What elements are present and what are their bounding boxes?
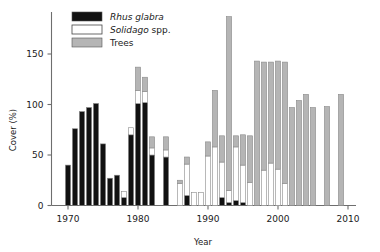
bar-segment-2005-trees: [310, 108, 315, 206]
bar-2001: [282, 62, 287, 205]
bar-segment-1980-trees: [135, 67, 140, 90]
bar-1992: [219, 136, 224, 206]
bar-segment-1979-solidago-spp: [128, 128, 133, 135]
bar-segment-1989-solidago-spp: [198, 192, 203, 205]
bar-segment-1996-trees: [247, 136, 252, 182]
bar-1995: [240, 135, 245, 206]
bar-segment-1980-solidago-spp: [135, 90, 140, 103]
bar-1987: [184, 157, 189, 205]
bar-1988: [191, 192, 196, 205]
bar-segment-2000-solidago-spp: [275, 169, 280, 205]
bar-segment-1980-rhus-glabra: [135, 103, 140, 205]
bar-segment-1998-trees: [261, 62, 266, 170]
bar-segment-1990-solidago-spp: [205, 156, 210, 205]
bar-segment-1991-trees: [212, 90, 217, 147]
bar-2007: [324, 107, 329, 206]
bar-1980: [135, 67, 140, 205]
bar-1973: [86, 108, 91, 206]
bar-1976: [107, 178, 112, 205]
bar-segment-1982-solidago-spp: [149, 148, 154, 155]
bar-segment-2000-trees: [275, 61, 280, 169]
bar-segment-1999-solidago-spp: [268, 163, 273, 205]
y-tick-label-150: 150: [26, 49, 43, 59]
bar-1994: [233, 136, 238, 206]
bar-1971: [72, 129, 77, 206]
bar-1999: [268, 62, 273, 205]
bar-segment-2007-trees: [324, 107, 329, 206]
bar-segment-2003-trees: [296, 100, 301, 205]
bar-1972: [79, 112, 84, 206]
bar-1993: [226, 17, 231, 206]
y-tick-label-100: 100: [26, 100, 43, 110]
x-tick-label-1990: 1990: [197, 214, 220, 224]
bar-1981: [142, 77, 147, 205]
bar-segment-1995-rhus-glabra: [240, 202, 245, 205]
bar-segment-1984-solidago-spp: [163, 150, 168, 157]
bar-segment-1978-solidago-spp: [121, 191, 126, 197]
bar-segment-1991-solidago-spp: [212, 147, 217, 206]
bar-segment-1986-trees: [177, 180, 182, 183]
bar-1984: [163, 137, 168, 206]
bar-segment-1976-rhus-glabra: [107, 178, 112, 205]
legend-item-rhus-glabra: Rhus glabra: [72, 12, 164, 22]
bar-segment-1993-rhus-glabra: [226, 202, 231, 205]
bar-segment-1981-solidago-spp: [142, 91, 147, 102]
bar-segment-1982-rhus-glabra: [149, 155, 154, 206]
legend-label-trees: Trees: [109, 38, 134, 48]
bar-segment-1988-solidago-spp: [191, 192, 196, 205]
bar-segment-1995-solidago-spp: [240, 165, 245, 202]
bar-2000: [275, 61, 280, 205]
bar-segment-1994-rhus-glabra: [233, 200, 238, 205]
bar-1975: [100, 144, 105, 206]
bar-segment-1973-rhus-glabra: [86, 108, 91, 206]
bar-1978: [121, 191, 126, 205]
bar-segment-2004-trees: [303, 94, 308, 205]
legend-label-rhus-glabra: Rhus glabra: [110, 12, 164, 22]
x-tick-label-2000: 2000: [267, 214, 290, 224]
bar-segment-1971-rhus-glabra: [72, 129, 77, 206]
bar-segment-1996-solidago-spp: [247, 182, 252, 205]
bar-2002: [289, 108, 294, 206]
bar-segment-1974-rhus-glabra: [93, 103, 98, 205]
bar-2004: [303, 94, 308, 205]
bar-segment-1987-trees: [184, 157, 189, 164]
x-axis-ticks: 19701980199020002010: [57, 206, 360, 224]
bar-segment-1998-solidago-spp: [261, 170, 266, 205]
bar-1974: [93, 103, 98, 205]
bar-segment-1992-trees: [219, 136, 224, 162]
bar-segment-1978-rhus-glabra: [121, 197, 126, 205]
bar-segment-1984-trees: [163, 137, 168, 150]
y-tick-label-50: 50: [32, 150, 44, 160]
bar-1998: [261, 62, 266, 205]
legend-label-solidago-spp: Solidago spp.: [110, 25, 171, 35]
bar-segment-1997-trees: [254, 61, 259, 205]
bar-1991: [212, 90, 217, 205]
x-tick-label-2010: 2010: [337, 214, 360, 224]
bar-1990: [205, 142, 210, 206]
bar-segment-1993-solidago-spp: [226, 190, 231, 202]
bar-1982: [149, 137, 154, 206]
bar-segment-1987-rhus-glabra: [184, 195, 189, 205]
y-axis-title: Cover (%): [8, 109, 18, 151]
bar-1986: [177, 180, 182, 205]
bar-2003: [296, 100, 301, 205]
bar-segment-1981-trees: [142, 77, 147, 91]
bar-2005: [310, 108, 315, 206]
x-tick-label-1970: 1970: [57, 214, 80, 224]
bar-segment-1984-rhus-glabra: [163, 157, 168, 205]
bar-segment-1987-solidago-spp: [184, 164, 189, 195]
legend-swatch-trees: [72, 38, 102, 47]
chart-figure: 050100150 19701980199020002010 Cover (%)…: [0, 0, 380, 252]
bar-segment-1979-rhus-glabra: [128, 135, 133, 206]
bar-segment-2009-trees: [338, 94, 343, 205]
y-tick-label-0: 0: [38, 201, 44, 211]
bar-segment-1977-rhus-glabra: [114, 175, 119, 205]
bar-segment-1992-rhus-glabra: [219, 197, 224, 205]
bar-segment-1981-rhus-glabra: [142, 102, 147, 205]
bar-segment-1990-trees: [205, 142, 210, 156]
legend-swatch-rhus-glabra: [72, 12, 102, 21]
legend-swatch-solidago-spp: [72, 25, 102, 34]
bar-1970: [65, 165, 70, 205]
bar-1977: [114, 175, 119, 205]
x-tick-label-1980: 1980: [127, 214, 150, 224]
